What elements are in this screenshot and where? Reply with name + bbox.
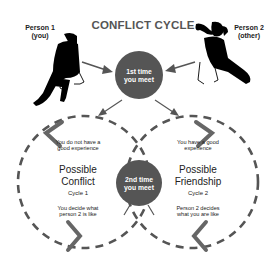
arrow-person2-to-node <box>165 62 195 73</box>
cycle-left-top-text: You do not have a good experience <box>44 139 112 151</box>
cycle-right-title-line1: Possible <box>164 164 232 176</box>
cycle-right-bottom-line2: what you are like <box>164 211 232 217</box>
node-second-line2: you meet <box>115 184 163 192</box>
node-second-label: 2nd time you meet <box>115 176 163 191</box>
cycle-left-bottom-text: You decide what person 2 is like <box>44 205 112 217</box>
person1-label: Person 1 (you) <box>18 24 62 40</box>
diagram-title: CONFLICT CYCLE <box>88 19 198 31</box>
cycle-left-title: Possible Conflict <box>44 164 112 188</box>
node-second-line1: 2nd time <box>115 176 163 184</box>
chevron-left-bottom-icon <box>68 222 80 250</box>
cycle-right-title: Possible Friendship <box>164 164 232 188</box>
node-first-line1: 1st time <box>115 68 163 76</box>
cycle-right-title-line2: Friendship <box>164 176 232 188</box>
person2-label: Person 2 (other) <box>224 24 274 40</box>
person2-name: Person 2 <box>224 24 274 32</box>
arrow-person1-to-node <box>82 62 113 74</box>
node-first-label: 1st time you meet <box>115 68 163 83</box>
node-first-line2: you meet <box>115 76 163 84</box>
cycle-left-title-line2: Conflict <box>44 176 112 188</box>
person1-name: Person 1 <box>18 24 62 32</box>
person1-silhouette-icon <box>33 33 84 106</box>
cycle-left-number: Cycle 1 <box>44 190 112 196</box>
cycle-right-top-line2: experience <box>164 145 232 151</box>
cycle-left-top-line2: good experience <box>44 145 112 151</box>
chevron-right-bottom-icon <box>194 222 206 250</box>
person1-role: (you) <box>18 32 62 40</box>
cycle-right-number: Cycle 2 <box>164 190 232 196</box>
diagram-canvas <box>0 0 277 271</box>
cycle-right-bottom-text: Person 2 decides what you are like <box>164 205 232 217</box>
arrow-node-to-left-cycle <box>98 100 122 116</box>
cycle-left-title-line1: Possible <box>44 164 112 176</box>
arrow-node-to-right-cycle <box>155 100 179 116</box>
cycle-left-bottom-line2: person 2 is like <box>44 211 112 217</box>
cycle-right-top-text: You have a good experience <box>164 139 232 151</box>
person2-role: (other) <box>224 32 274 40</box>
